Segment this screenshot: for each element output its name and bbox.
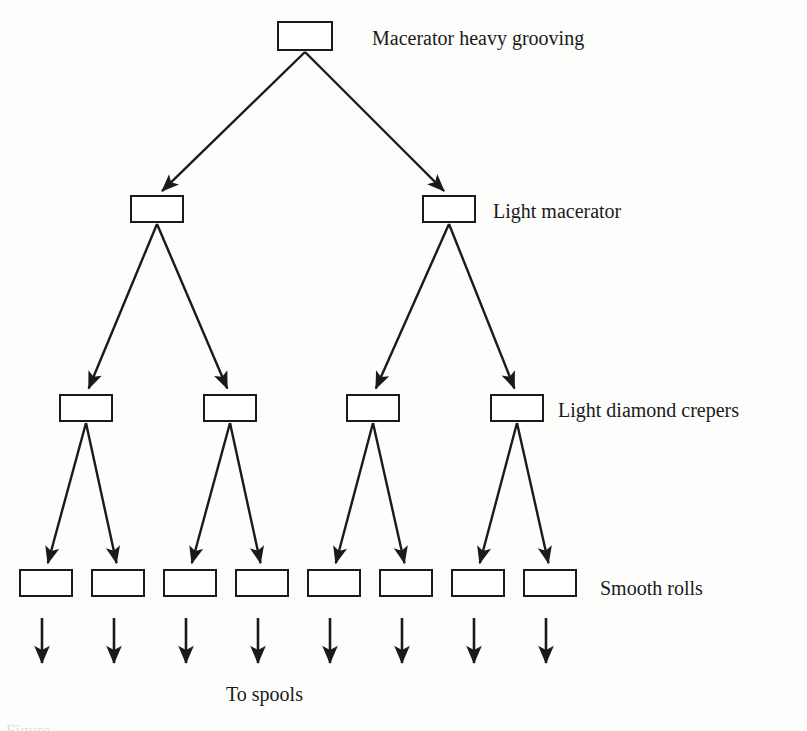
node-box-level-3-index-1[interactable] [92, 570, 144, 596]
node-box-level-1-index-1[interactable] [423, 196, 475, 222]
node-box-level-2-index-0[interactable] [60, 395, 112, 421]
node-box-level-2-index-3[interactable] [491, 395, 543, 421]
cropped-figure-caption: Figure [6, 722, 50, 731]
edge-2-2-to-3-4 [336, 423, 373, 563]
node-box-level-3-index-2[interactable] [164, 570, 216, 596]
node-box-level-2-index-2[interactable] [347, 395, 399, 421]
diagram-page: Macerator heavy grooving Light macerator… [0, 0, 807, 731]
row-label-smooth-rolls: Smooth rolls [600, 578, 703, 598]
edges-layer [48, 52, 549, 563]
edge-0-0-to-1-0 [162, 52, 305, 191]
edge-0-0-to-1-1 [305, 52, 444, 191]
node-box-level-1-index-0[interactable] [131, 196, 183, 222]
node-box-level-3-index-3[interactable] [236, 570, 288, 596]
edge-2-1-to-3-3 [230, 423, 261, 563]
edge-2-3-to-3-6 [480, 423, 517, 563]
node-box-level-2-index-1[interactable] [204, 395, 256, 421]
node-box-level-3-index-5[interactable] [380, 570, 432, 596]
node-box-level-0-index-0[interactable] [278, 22, 332, 50]
edge-1-1-to-2-3 [449, 224, 514, 388]
edge-2-3-to-3-7 [517, 423, 548, 563]
row-label-macerator-heavy-grooving: Macerator heavy grooving [372, 28, 584, 48]
node-box-level-3-index-0[interactable] [20, 570, 72, 596]
node-box-level-3-index-7[interactable] [524, 570, 576, 596]
boxes-layer [20, 22, 576, 596]
tree-diagram-canvas [0, 0, 807, 731]
row-label-light-diamond-crepers: Light diamond crepers [558, 400, 739, 420]
bottom-caption-to-spools: To spools [226, 684, 303, 704]
edge-1-0-to-2-0 [89, 224, 157, 389]
terminal-arrows-layer [42, 618, 546, 663]
edge-2-2-to-3-5 [373, 423, 404, 563]
edge-2-0-to-3-1 [86, 423, 117, 563]
node-box-level-3-index-6[interactable] [452, 570, 504, 596]
row-label-light-macerator: Light macerator [493, 201, 621, 221]
edge-2-0-to-3-0 [48, 423, 86, 563]
edge-2-1-to-3-2 [192, 423, 230, 563]
edge-1-0-to-2-1 [157, 224, 227, 389]
edge-1-1-to-2-2 [376, 224, 449, 389]
node-box-level-3-index-4[interactable] [308, 570, 360, 596]
